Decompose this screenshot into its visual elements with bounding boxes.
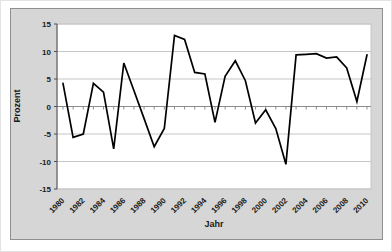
x-tick-label: 2004 [291,196,310,215]
x-tick-label: 1992 [169,196,188,215]
x-tick-label: 2008 [331,196,350,215]
y-tick-label: 15 [42,20,51,29]
y-tick-label: 5 [47,75,52,84]
y-tick-label: -10 [39,158,51,167]
y-tick-label: 0 [47,103,52,112]
x-tick-label: 1998 [230,196,249,215]
x-tick-label: 2010 [351,196,370,215]
y-axis-title: Prozent [12,89,22,122]
plot-layer: 151050-5-10-1519801982198419861988199019… [39,20,371,215]
y-tick-label: 10 [42,48,51,57]
x-axis-title: Jahr [204,219,224,229]
x-tick-label: 1988 [129,196,148,215]
x-tick-label: 1986 [108,196,127,215]
x-tick-label: 1994 [189,196,208,215]
y-tick-label: -5 [44,130,52,139]
y-tick-label: -15 [39,185,51,194]
x-tick-label: 2006 [311,196,330,215]
x-tick-label: 2000 [250,196,269,215]
x-tick-label: 1982 [68,196,87,215]
x-tick-label: 1990 [149,196,168,215]
screenshot-canvas: 151050-5-10-1519801982198419861988199019… [0,0,392,252]
x-tick-label: 1996 [210,196,229,215]
chart-svg: 151050-5-10-1519801982198419861988199019… [11,9,382,239]
x-tick-label: 2002 [270,196,289,215]
chart-area: 151050-5-10-1519801982198419861988199019… [10,8,383,240]
x-tick-label: 1980 [47,196,66,215]
x-tick-label: 1984 [88,196,107,215]
